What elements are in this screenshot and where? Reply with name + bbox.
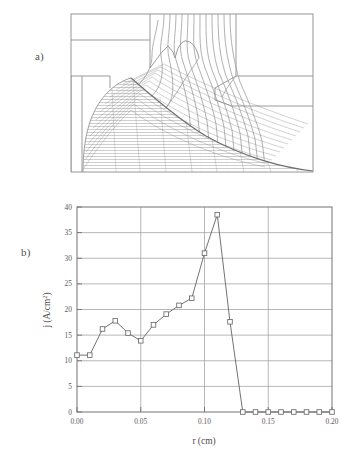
data-point-marker [240,410,245,415]
data-point-marker [138,338,143,343]
y-tick-label: 25 [65,279,73,288]
data-point-marker [317,410,322,415]
data-point-marker [202,251,207,256]
y-tick-label: 35 [65,228,73,237]
data-point-marker [164,312,169,317]
y-axis-title-main: j (A/cm [42,298,53,329]
y-tick-label: 5 [68,382,72,391]
y-tick-label: 40 [65,203,73,212]
data-point-marker [151,323,156,328]
figure-root: a) [0,0,352,466]
data-point-marker [215,212,220,217]
y-tick-label: 15 [65,331,73,340]
x-tick-label: 0.15 [262,417,275,426]
data-point-marker [87,353,92,358]
x-tick-labels: 0.00 0.05 0.10 0.15 0.20 [71,417,339,426]
y-axis-title: j (A/cm2) [41,292,53,328]
y-tick-label: 0 [68,408,72,417]
y-tick-label: 20 [65,305,73,314]
data-point-marker [228,320,233,325]
y-tick-labels: 0 5 10 15 20 25 30 35 40 [65,203,73,417]
data-point-marker [279,410,284,415]
data-point-marker [253,410,258,415]
data-point-marker [291,410,296,415]
data-point-marker [304,410,309,415]
data-point-marker [266,410,271,415]
x-tick-label: 0.05 [134,417,147,426]
x-tick-label: 0.10 [198,417,211,426]
x-tick-label: 0.20 [326,417,339,426]
y-tick-marks [77,207,82,412]
y-tick-label: 30 [65,254,73,263]
y-axis-title-tail: ) [42,292,53,295]
y-tick-label: 10 [65,356,73,365]
panel-b-chart: 0 5 10 15 20 25 30 35 40 0.00 0.05 0.10 … [0,190,352,466]
data-point-marker [75,353,80,358]
data-point-marker [177,303,182,308]
data-point-marker [189,296,194,301]
panel-a-diagram [0,0,352,190]
data-point-marker [113,318,118,323]
svg-text:j (A/cm2): j (A/cm2) [41,292,53,328]
data-point-marker [330,410,335,415]
x-tick-label: 0.00 [71,417,84,426]
data-point-marker [100,327,105,332]
plot-grid [77,207,332,412]
x-axis-title: r (cm) [192,436,215,447]
data-point-marker [126,331,131,336]
